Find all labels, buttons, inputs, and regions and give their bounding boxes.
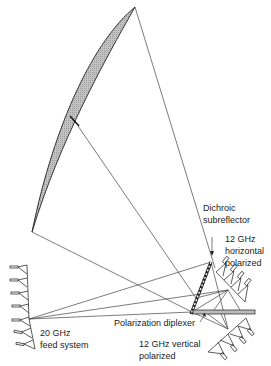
polarization-diplexer <box>193 310 255 314</box>
label-dichroic-1: Dichroic <box>203 203 236 213</box>
label-feed20-1: 20 GHz <box>40 328 71 338</box>
label-horiz-3: polarized <box>225 258 262 268</box>
label-horiz-1: 12 GHz <box>225 234 256 244</box>
label-vert-1: 12 GHz vertical <box>139 339 201 349</box>
label-diplexer: Polarization diplexer <box>114 318 195 328</box>
label-horiz-2: horizontal <box>225 246 264 256</box>
ray-lines <box>29 7 240 329</box>
antenna-diagram: Dichroic subreflector 12 GHz horizontal … <box>0 0 271 366</box>
label-feed20-2: feed system <box>40 340 89 350</box>
12ghz-vertical-feed-array <box>208 318 254 360</box>
label-dichroic-2: subreflector <box>203 215 250 225</box>
pointer-arrows <box>200 237 214 322</box>
label-vert-2: polarized <box>139 351 176 361</box>
diagram-labels: Dichroic subreflector 12 GHz horizontal … <box>40 203 264 361</box>
20ghz-feed-array <box>10 265 35 349</box>
main-reflector <box>32 7 135 232</box>
